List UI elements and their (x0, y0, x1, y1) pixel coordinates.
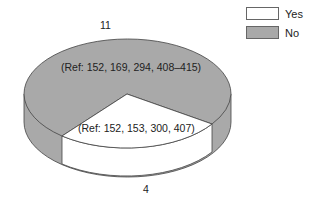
legend-swatch-no (246, 26, 279, 39)
legend-label-no: No (285, 27, 299, 39)
value-label-yes: 4 (143, 183, 149, 195)
legend-item-no: No (246, 26, 299, 39)
legend-item-yes: Yes (246, 7, 303, 20)
value-label-no: 11 (100, 19, 111, 31)
legend-swatch-yes (246, 7, 279, 20)
pie-chart: 11 4 (Ref: 152, 169, 294, 408–415) (Ref:… (0, 0, 313, 203)
legend-label-yes: Yes (285, 8, 303, 20)
annotation-no: (Ref: 152, 169, 294, 408–415) (61, 61, 201, 73)
annotation-yes: (Ref: 152, 153, 300, 407) (78, 122, 195, 134)
